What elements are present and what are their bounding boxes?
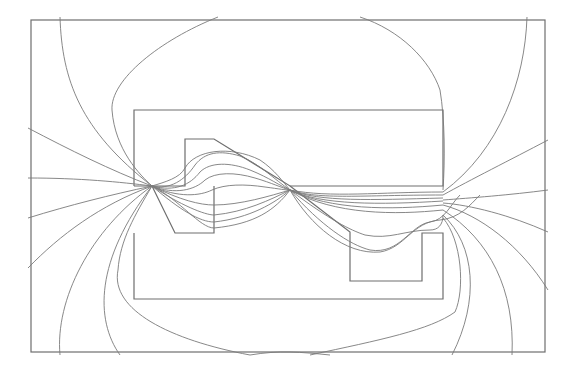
field-lines-center (152, 151, 480, 252)
field-diagram (0, 0, 572, 373)
outer-boundary (31, 20, 545, 352)
upper-core (134, 110, 443, 186)
